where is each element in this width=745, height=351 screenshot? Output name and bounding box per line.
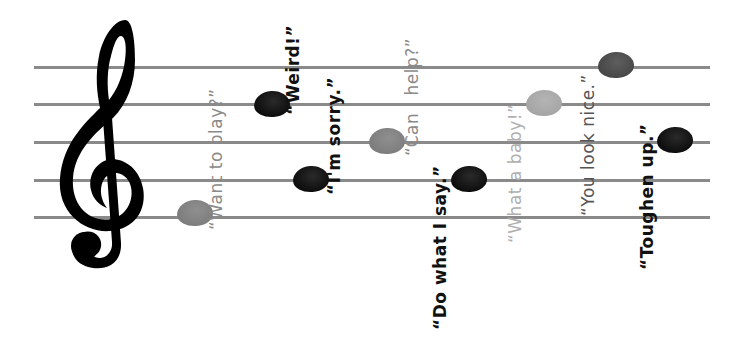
treble-clef-icon [55, 18, 155, 273]
staff-illustration: “Want to play?” “Weird!” “I'm sorry.” “C… [0, 0, 745, 351]
quote-want-to-play: “Want to play?” [206, 88, 226, 230]
note-what-a-baby [525, 89, 563, 117]
note-do-what-i-say [450, 165, 488, 193]
quote-can-i-help: “Can I help?” [402, 38, 422, 156]
quote-im-sorry: “I'm sorry.” [324, 77, 344, 195]
quote-what-a-baby: “What a baby!” [505, 104, 525, 243]
quote-do-what-i-say: “Do what I say.” [430, 165, 450, 330]
quote-weird: “Weird!” [283, 25, 303, 115]
note-can-i-help [368, 127, 406, 155]
quote-toughen-up: “Toughen up.” [637, 123, 657, 270]
quote-you-look-nice: “You look nice.” [578, 74, 598, 216]
note-toughen-up [656, 126, 694, 154]
note-you-look-nice [597, 51, 635, 79]
